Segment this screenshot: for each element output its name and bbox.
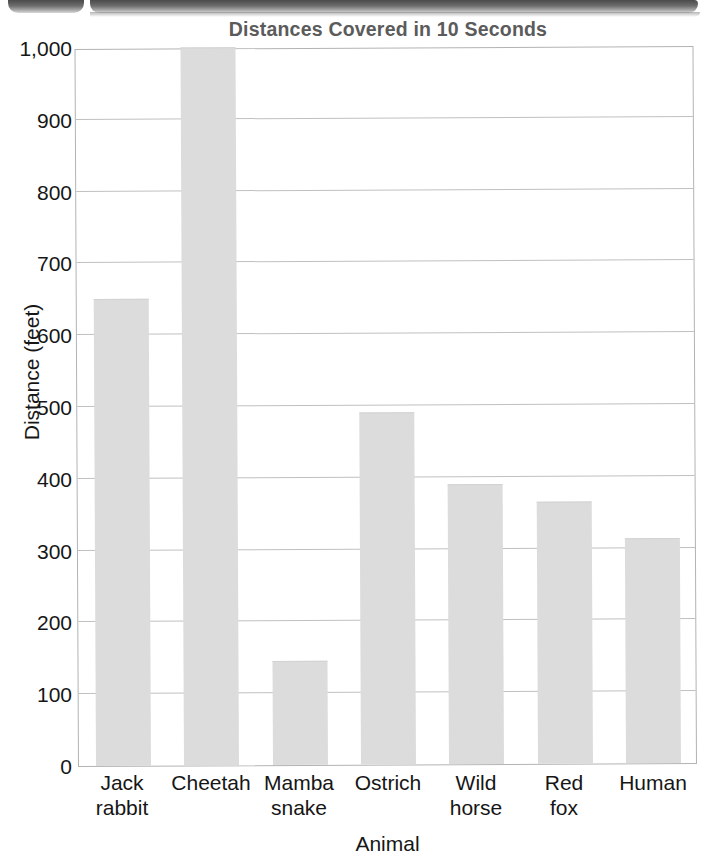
chart-title: Distances Covered in 10 Seconds (78, 18, 698, 41)
x-axis-tick-label-line: Red (516, 770, 612, 795)
x-axis-tick-label: Wildhorse (428, 770, 524, 820)
bar (272, 661, 328, 765)
gridline (77, 259, 694, 263)
y-axis-tick-label: 600 (2, 324, 72, 348)
gridline (76, 116, 693, 120)
y-axis-tick-label: 0 (2, 755, 72, 779)
bar (94, 299, 151, 766)
gridline (77, 331, 694, 335)
bar (537, 501, 593, 763)
bar (448, 484, 504, 764)
y-axis-tick-label: 400 (2, 468, 72, 492)
x-axis-title: Animal (78, 832, 697, 856)
bar (180, 47, 239, 765)
bar (359, 413, 416, 765)
x-axis-tick-label-line: Human (605, 770, 701, 795)
x-axis-tick-label-line: rabbit (74, 795, 170, 820)
x-axis-tick-label: Ostrich (340, 770, 436, 795)
y-axis-tick-label: 300 (2, 540, 72, 564)
y-axis-tick-label: 700 (2, 252, 72, 276)
bar (625, 538, 681, 763)
x-axis-tick-label: Jackrabbit (74, 770, 170, 820)
x-axis-tick-label: Redfox (516, 770, 612, 820)
x-axis-tick-label-line: Cheetah (163, 770, 259, 795)
y-axis-tick-label: 200 (2, 611, 72, 635)
bar-chart-figure: Distances Covered in 10 Seconds Distance… (0, 0, 706, 866)
x-axis-tick-label-line: horse (428, 795, 524, 820)
x-axis-tick-label-line: Ostrich (340, 770, 436, 795)
y-axis-tick-labels: 01002003004005006007008009001,000 (0, 49, 72, 767)
gridline (76, 188, 693, 192)
y-axis-tick-label: 100 (2, 683, 72, 707)
x-axis-tick-label-line: snake (251, 795, 347, 820)
y-axis-tick-label: 900 (2, 109, 72, 133)
x-axis-tick-label-line: Wild (428, 770, 524, 795)
plot-area (74, 46, 697, 767)
x-axis-tick-label-line: Jack (74, 770, 170, 795)
x-axis-tick-label: Human (605, 770, 701, 795)
x-axis-tick-label-line: fox (516, 795, 612, 820)
x-axis-tick-label-line: Mamba (251, 770, 347, 795)
x-axis-tick-label: Cheetah (163, 770, 259, 795)
x-axis-tick-label: Mambasnake (251, 770, 347, 820)
gridline (77, 403, 694, 407)
y-axis-tick-label: 1,000 (2, 37, 72, 61)
y-axis-tick-label: 800 (2, 181, 72, 205)
x-axis-tick-labels: JackrabbitCheetahMambasnakeOstrichWildho… (78, 770, 697, 832)
y-axis-tick-label: 500 (2, 396, 72, 420)
